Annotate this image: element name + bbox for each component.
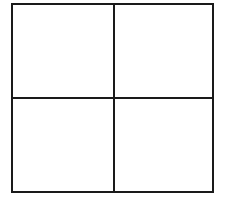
grid-cell-top-left [13, 5, 113, 97]
grid-cell-top-right [115, 5, 212, 97]
grid-cell-bottom-left [13, 99, 113, 191]
two-by-two-grid [11, 3, 214, 193]
grid-cell-bottom-right [115, 99, 212, 191]
diagram-canvas [0, 0, 226, 203]
horizontal-divider [13, 97, 212, 99]
